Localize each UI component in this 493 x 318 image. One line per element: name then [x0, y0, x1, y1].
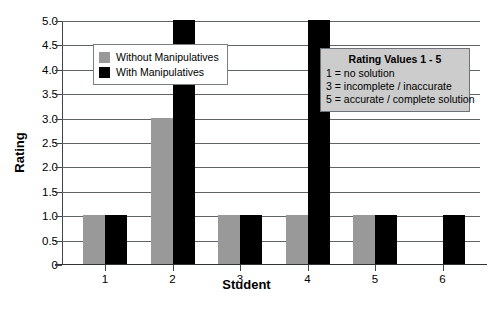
bar [151, 118, 173, 264]
legend-item: With Manipulatives [99, 65, 219, 79]
bar [375, 215, 397, 264]
bar [443, 215, 465, 264]
y-axis-tick [55, 143, 62, 144]
x-axis-title: Student [0, 277, 493, 292]
y-axis-tick [55, 21, 62, 22]
y-axis-tick-labels: 00.51.01.52.02.53.03.54.04.55.0 [30, 0, 58, 318]
rating-values-annotation: Rating Values 1 - 5 1 = no solution 3 = … [320, 48, 470, 112]
y-axis-title: Rating [6, 112, 32, 192]
bar [353, 215, 375, 264]
legend-label-with-manipulatives: With Manipulatives [116, 66, 204, 78]
y-axis-tick [55, 265, 62, 266]
annotation-title: Rating Values 1 - 5 [326, 53, 464, 65]
bar [105, 215, 127, 264]
bar [83, 215, 105, 264]
y-axis-tick [55, 70, 62, 71]
y-axis-tick [55, 45, 62, 46]
x-axis-tick [308, 265, 309, 271]
annotation-line-1: 1 = no solution [326, 67, 464, 80]
gridline [62, 167, 480, 168]
y-axis-title-text: Rating [12, 132, 27, 172]
x-axis-tick [375, 265, 376, 271]
gridline [62, 21, 480, 22]
x-axis-tick [173, 265, 174, 271]
annotation-line-2: 3 = incomplete / inaccurate [326, 80, 464, 93]
y-axis-tick [55, 241, 62, 242]
y-axis-tick [55, 119, 62, 120]
gridline [62, 192, 480, 193]
legend-swatch-without-manipulatives [99, 52, 110, 63]
chart-legend: Without Manipulatives With Manipulatives [93, 44, 228, 85]
legend-item: Without Manipulatives [99, 50, 219, 64]
x-axis-tick [105, 265, 106, 271]
bar [240, 215, 262, 264]
y-axis-tick [55, 216, 62, 217]
y-axis-tick [55, 94, 62, 95]
x-axis-tick [443, 265, 444, 271]
bar [286, 215, 308, 264]
bar [218, 215, 240, 264]
gridline [62, 119, 480, 120]
y-axis-tick [55, 192, 62, 193]
annotation-line-3: 5 = accurate / complete solution [326, 93, 464, 106]
legend-label-without-manipulatives: Without Manipulatives [116, 51, 219, 63]
y-axis-tick [55, 167, 62, 168]
x-axis-tick [240, 265, 241, 271]
x-axis-line [55, 264, 487, 265]
bar-chart: Rating 00.51.01.52.02.53.03.54.04.55.0 1… [0, 0, 493, 318]
legend-swatch-with-manipulatives [99, 67, 110, 78]
gridline [62, 143, 480, 144]
